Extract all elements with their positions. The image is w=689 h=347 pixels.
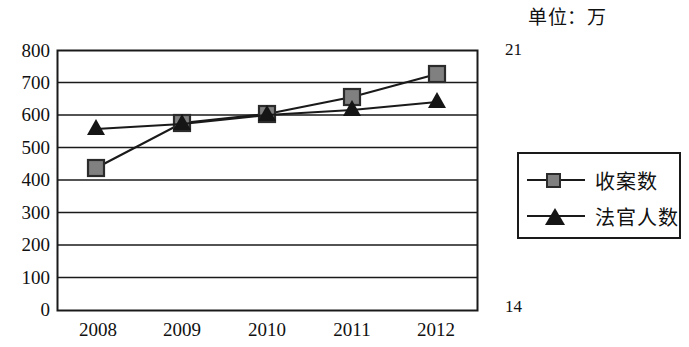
legend-triangle-marker-icon [527,205,585,227]
chart-legend: 收案数 法官人数 [517,152,681,239]
data-point-marker [429,66,445,82]
data-point-marker [88,160,104,176]
chart-figure: 单位：万 21 14 800 700 600 500 400 300 200 1… [0,0,689,347]
legend-label-shoushushu: 收案数 [595,166,658,195]
legend-item-shoushushu: 收案数 [527,163,658,197]
legend-square-marker-icon [527,169,585,191]
legend-label-faguanrenshu: 法官人数 [595,202,679,231]
legend-item-faguanrenshu: 法官人数 [527,199,679,233]
